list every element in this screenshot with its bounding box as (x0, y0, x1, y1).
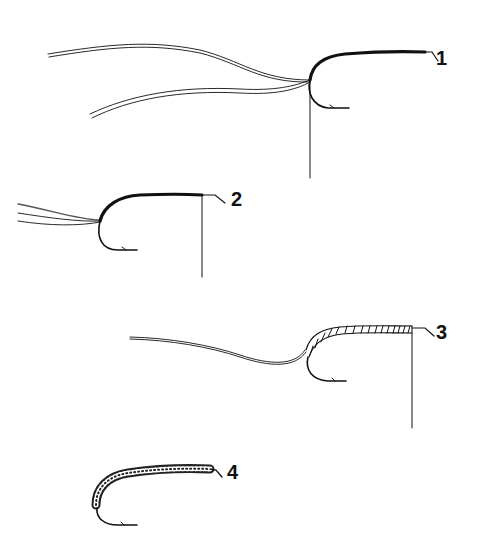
step-2-hook-bend (99, 221, 137, 250)
step-2-illustration (18, 194, 225, 277)
step-1-illustration (48, 44, 438, 178)
step-2-strand (18, 204, 100, 220)
step-2-label: 2 (231, 189, 242, 209)
fly-tying-diagram (0, 0, 482, 556)
step-4-hook-bend (97, 508, 137, 525)
step-1-hook-shank (310, 52, 425, 80)
step-4-wrapped-body (96, 469, 210, 505)
step-3-ribbed-body (306, 326, 412, 350)
step-4-label: 4 (227, 462, 238, 482)
step-2-hook-eye (202, 195, 225, 203)
step-1-hook-bend (309, 80, 349, 108)
step-3-label: 3 (436, 322, 447, 342)
step-1-label: 1 (436, 48, 447, 68)
step-3-illustration (130, 326, 434, 428)
step-1-lower-strand (90, 80, 310, 114)
step-4-illustration (96, 469, 222, 525)
step-3-hook-bend (307, 357, 346, 381)
step-2-hook-shank (100, 194, 202, 221)
step-3-hook-eye (412, 328, 434, 336)
